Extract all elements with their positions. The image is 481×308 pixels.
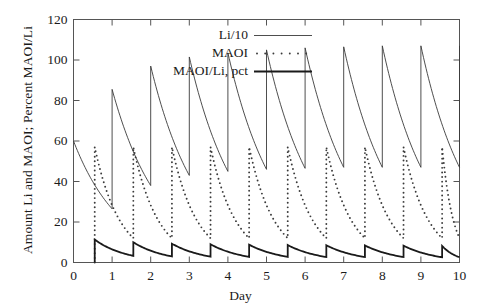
x-tick-label: 0 [59,269,89,283]
x-tick-label: 3 [174,269,204,283]
chart-figure: Amount Li and MAOI; Percent MAOI/Li Day … [0,0,481,308]
x-tick-label: 10 [445,269,475,283]
y-tick-label: 120 [28,13,68,27]
x-tick-label: 4 [213,269,243,283]
legend-label-1: Li/10 [40,28,248,42]
y-tick-label: 60 [28,134,68,148]
legend-label-2: MAOI [40,46,248,60]
x-tick-label: 5 [252,269,282,283]
series-maoi-li-pct [95,240,460,263]
x-tick-label: 7 [329,269,359,283]
x-tick-label: 9 [406,269,436,283]
x-tick-label: 2 [136,269,166,283]
legend-label-3: MAOI/Li, pct [40,64,248,78]
x-tick-label: 6 [290,269,320,283]
x-tick-label: 8 [367,269,397,283]
x-tick-label: 1 [97,269,127,283]
y-tick-label: 40 [28,175,68,189]
y-tick-label: 20 [28,215,68,229]
legend-swatch-dotted [256,53,307,55]
y-tick-label: 0 [28,256,68,270]
y-tick-label: 80 [28,94,68,108]
